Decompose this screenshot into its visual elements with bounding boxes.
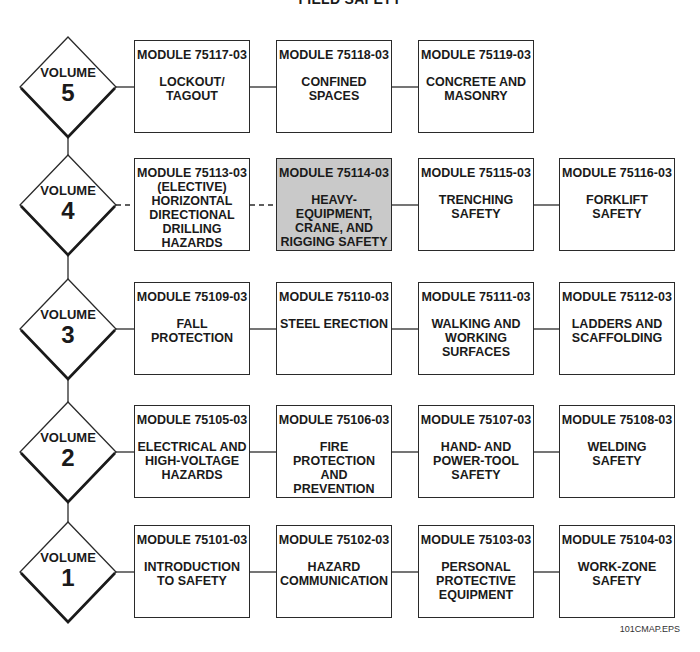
module-name: FIRE PROTECTION AND PREVENTION (277, 440, 391, 496)
module-code: MODULE 75106-03 (277, 413, 391, 427)
module-code: MODULE 75118-03 (277, 48, 391, 62)
module-box: MODULE 75110-03STEEL ERECTION (276, 282, 392, 375)
module-name: WELDING SAFETY (560, 440, 674, 468)
module-name: STEEL ERECTION (277, 317, 391, 331)
module-box: MODULE 75118-03CONFINED SPACES (276, 40, 392, 133)
volume-label: VOLUME5 (20, 65, 116, 106)
module-name: HAND- AND POWER-TOOL SAFETY (419, 440, 533, 482)
module-box: MODULE 75103-03PERSONAL PROTECTIVE EQUIP… (418, 525, 534, 618)
module-box: MODULE 75117-03LOCKOUT/ TAGOUT (134, 40, 250, 133)
volume-word: VOLUME (20, 430, 116, 445)
module-name: CONFINED SPACES (277, 75, 391, 103)
module-box: MODULE 75111-03WALKING AND WORKING SURFA… (418, 282, 534, 375)
volume-number: 3 (20, 322, 116, 348)
volume-label: VOLUME4 (20, 183, 116, 224)
module-box: MODULE 75101-03INTRODUCTION TO SAFETY (134, 525, 250, 618)
module-name: CONCRETE AND MASONRY (419, 75, 533, 103)
module-name: FORKLIFT SAFETY (560, 193, 674, 221)
module-code: MODULE 75108-03 (560, 413, 674, 427)
module-name: LADDERS AND SCAFFOLDING (560, 317, 674, 345)
module-code: MODULE 75115-03 (419, 166, 533, 180)
module-name: (ELECTIVE) HORIZONTAL DIRECTIONAL DRILLI… (135, 180, 249, 250)
module-box: MODULE 75115-03TRENCHING SAFETY (418, 158, 534, 251)
module-code: MODULE 75119-03 (419, 48, 533, 62)
module-code: MODULE 75114-03 (277, 166, 391, 180)
module-name: HEAVY- EQUIPMENT, CRANE, AND RIGGING SAF… (277, 193, 391, 249)
module-name: WALKING AND WORKING SURFACES (419, 317, 533, 359)
volume-word: VOLUME (20, 65, 116, 80)
module-name: INTRODUCTION TO SAFETY (135, 560, 249, 588)
module-name: FALL PROTECTION (135, 317, 249, 345)
module-code: MODULE 75110-03 (277, 290, 391, 304)
module-code: MODULE 75101-03 (135, 533, 249, 547)
module-box: MODULE 75112-03LADDERS AND SCAFFOLDING (559, 282, 675, 375)
file-label: 101CMAP.EPS (620, 624, 680, 634)
module-code: MODULE 75107-03 (419, 413, 533, 427)
module-box: MODULE 75108-03WELDING SAFETY (559, 405, 675, 498)
module-code: MODULE 75104-03 (560, 533, 674, 547)
module-name: LOCKOUT/ TAGOUT (135, 75, 249, 103)
module-name: WORK-ZONE SAFETY (560, 560, 674, 588)
volume-word: VOLUME (20, 183, 116, 198)
module-box: MODULE 75113-03(ELECTIVE) HORIZONTAL DIR… (134, 158, 250, 251)
module-box: MODULE 75107-03HAND- AND POWER-TOOL SAFE… (418, 405, 534, 498)
module-code: MODULE 75109-03 (135, 290, 249, 304)
volume-label: VOLUME3 (20, 307, 116, 348)
module-code: MODULE 75112-03 (560, 290, 674, 304)
module-name: PERSONAL PROTECTIVE EQUIPMENT (419, 560, 533, 602)
volume-word: VOLUME (20, 307, 116, 322)
module-name: ELECTRICAL AND HIGH-VOLTAGE HAZARDS (135, 440, 249, 482)
module-code: MODULE 75103-03 (419, 533, 533, 547)
volume-word: VOLUME (20, 550, 116, 565)
volume-label: VOLUME2 (20, 430, 116, 471)
module-box: MODULE 75119-03CONCRETE AND MASONRY (418, 40, 534, 133)
module-code: MODULE 75102-03 (277, 533, 391, 547)
module-code: MODULE 75113-03 (135, 166, 249, 180)
volume-label: VOLUME1 (20, 550, 116, 591)
module-code: MODULE 75105-03 (135, 413, 249, 427)
module-name: HAZARD COMMUNICATION (277, 560, 391, 588)
module-name: TRENCHING SAFETY (419, 193, 533, 221)
module-box: MODULE 75114-03HEAVY- EQUIPMENT, CRANE, … (276, 158, 392, 251)
module-box: MODULE 75105-03ELECTRICAL AND HIGH-VOLTA… (134, 405, 250, 498)
module-code: MODULE 75116-03 (560, 166, 674, 180)
module-code: MODULE 75117-03 (135, 48, 249, 62)
module-code: MODULE 75111-03 (419, 290, 533, 304)
module-box: MODULE 75104-03WORK-ZONE SAFETY (559, 525, 675, 618)
module-box: MODULE 75109-03FALL PROTECTION (134, 282, 250, 375)
volume-number: 5 (20, 80, 116, 106)
volume-number: 1 (20, 565, 116, 591)
volume-number: 2 (20, 445, 116, 471)
module-box: MODULE 75106-03FIRE PROTECTION AND PREVE… (276, 405, 392, 498)
volume-number: 4 (20, 198, 116, 224)
module-box: MODULE 75116-03FORKLIFT SAFETY (559, 158, 675, 251)
module-box: MODULE 75102-03HAZARD COMMUNICATION (276, 525, 392, 618)
